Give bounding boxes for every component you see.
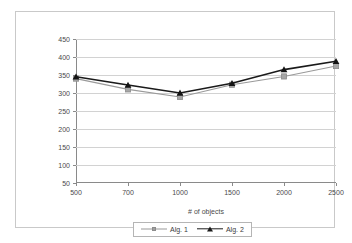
y-axis-label: 350	[58, 72, 70, 79]
legend-entry-alg-1: Alg. 1	[141, 225, 188, 233]
x-tick-mark	[284, 183, 285, 186]
series-alg-2	[73, 58, 340, 96]
square-marker-icon	[141, 225, 167, 233]
y-axis-label: 450	[58, 36, 70, 43]
chart-container: 50100150200250300350400450 5007001000150…	[15, 11, 335, 228]
y-axis-label: 200	[58, 126, 70, 133]
x-axis-label: 1500	[224, 189, 240, 197]
y-axis-label: 150	[58, 144, 70, 151]
series-plot	[76, 39, 336, 183]
x-tick-mark	[180, 183, 181, 186]
x-axis-label: 2500	[328, 189, 344, 197]
triangle-marker-icon	[197, 225, 223, 233]
legend-entry-alg-2: Alg. 2	[197, 225, 244, 233]
x-axis-label: 700	[122, 189, 134, 197]
data-point-square-marker	[333, 63, 338, 68]
x-tick-mark	[76, 183, 77, 186]
chart-legend: Alg. 1 Alg. 2	[133, 222, 252, 237]
data-point-square-marker	[281, 74, 286, 79]
y-axis-label: 250	[58, 108, 70, 115]
x-axis-label: 1000	[172, 189, 188, 197]
legend-label: Alg. 1	[170, 226, 188, 233]
x-tick-mark	[232, 183, 233, 186]
x-axis-title: # of objects	[76, 208, 336, 215]
y-axis-label: 100	[58, 162, 70, 169]
x-axis-label: 500	[70, 189, 82, 197]
y-axis-label: 300	[58, 90, 70, 97]
x-tick-mark	[336, 183, 337, 186]
plot-area: 50100150200250300350400450 5007001000150…	[76, 39, 336, 183]
series-alg-1	[73, 63, 338, 99]
series-line	[76, 61, 336, 93]
y-axis-label: 50	[62, 180, 70, 187]
legend-label: Alg. 2	[226, 226, 244, 233]
series-line	[76, 66, 336, 97]
x-tick-mark	[128, 183, 129, 186]
y-axis-label: 400	[58, 54, 70, 61]
x-axis-label: 2000	[276, 189, 292, 197]
